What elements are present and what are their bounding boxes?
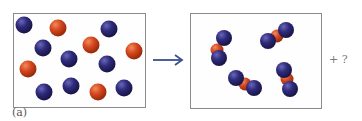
red-atom: [50, 20, 67, 37]
red-atom: [90, 84, 107, 101]
blue-atom: [61, 51, 78, 68]
red-atom: [83, 37, 100, 54]
part-label: (a): [12, 106, 27, 119]
plus-unknown-label: + ?: [329, 53, 348, 66]
reaction-diagram: [0, 0, 362, 121]
reaction-arrow-icon: [153, 55, 182, 65]
product-molecule: [211, 30, 233, 66]
blue-atom: [35, 40, 52, 57]
blue-atom: [99, 56, 116, 73]
blue-atom: [36, 84, 53, 101]
product-molecule: [276, 62, 298, 97]
red-atom: [20, 61, 37, 78]
product-molecule: [260, 22, 294, 49]
product-molecule: [228, 70, 262, 96]
blue-atom: [116, 80, 133, 97]
blue-atom: [101, 21, 118, 38]
blue-atom: [16, 17, 33, 34]
red-atom: [126, 43, 143, 60]
blue-atom: [63, 78, 80, 95]
reactant-atoms: [16, 17, 143, 101]
